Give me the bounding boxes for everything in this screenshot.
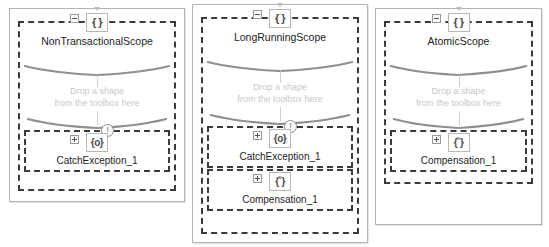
compensation-icon: {˚} xyxy=(448,133,470,152)
collapse-toggle-button[interactable] xyxy=(70,14,79,23)
expand-toggle-button[interactable] xyxy=(70,135,79,144)
child-activity-title: CatchException_1 xyxy=(26,155,168,166)
pin-marker-icon xyxy=(94,7,100,11)
designer-panel-atomicscope[interactable]: { } AtomicScope Drop a shape from the to… xyxy=(375,8,542,225)
compensation-icon: {˚} xyxy=(269,172,291,191)
scope-title: LongRunningScope xyxy=(203,31,357,43)
expand-toggle-button[interactable] xyxy=(432,135,441,144)
scope-header: { } NonTransactionalScope xyxy=(20,14,174,54)
scope-activity-atomicscope[interactable]: { } AtomicScope Drop a shape from the to… xyxy=(384,21,533,184)
drop-target-hint[interactable]: Drop a shape from the toolbox here xyxy=(20,85,174,109)
scope-braces-icon: { } xyxy=(448,13,470,32)
child-activity-catchexception[interactable]: ! {o} CatchException_1 xyxy=(24,130,170,172)
child-brace-divider xyxy=(26,116,168,130)
expand-toggle-button[interactable] xyxy=(253,131,262,140)
catch-exception-icon: {o} xyxy=(86,133,108,152)
workflow-designer-canvas: { } NonTransactionalScope Drop a shape f… xyxy=(0,0,549,247)
scope-header: { } AtomicScope xyxy=(386,14,531,54)
expand-toggle-button[interactable] xyxy=(253,174,262,183)
child-brace-divider xyxy=(392,116,525,130)
drop-hint-line-1: Drop a shape xyxy=(203,81,357,93)
drop-target-hint[interactable]: Drop a shape from the toolbox here xyxy=(203,81,357,105)
child-activity-catchexception[interactable]: ! {o} CatchException_1 xyxy=(207,126,353,168)
designer-panel-nontransactionalscope[interactable]: { } NonTransactionalScope Drop a shape f… xyxy=(9,8,185,202)
scope-header: { } LongRunningScope xyxy=(203,10,357,50)
scope-title: AtomicScope xyxy=(386,35,531,47)
child-activity-title: Compensation_1 xyxy=(209,194,351,205)
drop-hint-line-1: Drop a shape xyxy=(386,85,531,97)
child-activity-title: CatchException_1 xyxy=(209,151,351,162)
collapse-toggle-button[interactable] xyxy=(253,10,262,19)
scope-title: NonTransactionalScope xyxy=(20,35,174,47)
scope-braces-icon: { } xyxy=(269,9,291,28)
scope-activity-nontransactionalscope[interactable]: { } NonTransactionalScope Drop a shape f… xyxy=(18,21,176,191)
child-activity-compensation[interactable]: {˚} Compensation_1 xyxy=(390,130,527,172)
drop-hint-line-2: from the toolbox here xyxy=(203,93,357,105)
drop-hint-line-2: from the toolbox here xyxy=(386,97,531,109)
scope-braces-icon: { } xyxy=(86,13,108,32)
child-activity-compensation[interactable]: {˚} Compensation_1 xyxy=(207,169,353,211)
child-activity-title: Compensation_1 xyxy=(392,155,525,166)
designer-panel-longrunningscope[interactable]: { } LongRunningScope Drop a shape from t… xyxy=(192,4,368,243)
pin-marker-icon xyxy=(456,7,462,11)
catch-exception-icon: {o} xyxy=(269,129,291,148)
pin-marker-icon xyxy=(277,3,283,7)
collapse-toggle-button[interactable] xyxy=(432,14,441,23)
child-brace-divider xyxy=(209,112,351,126)
drop-hint-line-2: from the toolbox here xyxy=(20,97,174,109)
drop-target-hint[interactable]: Drop a shape from the toolbox here xyxy=(386,85,531,109)
scope-activity-longrunningscope[interactable]: { } LongRunningScope Drop a shape from t… xyxy=(201,17,359,234)
drop-hint-line-1: Drop a shape xyxy=(20,85,174,97)
